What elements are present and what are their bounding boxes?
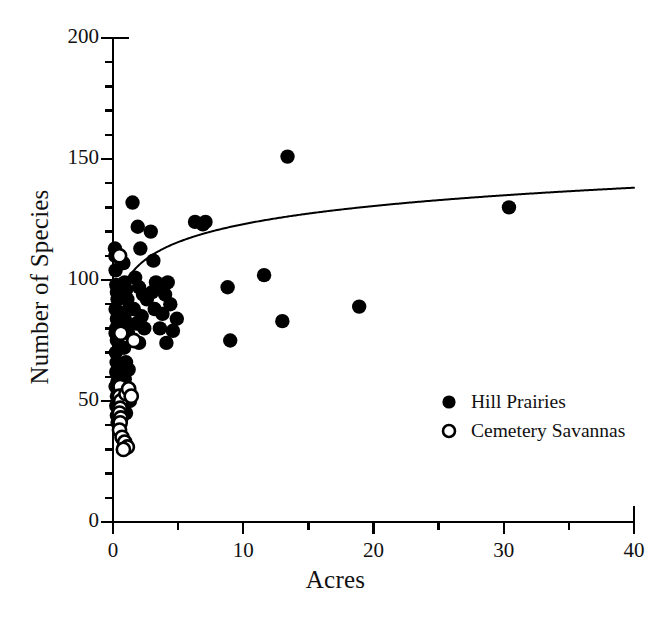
data-point-filled — [223, 333, 237, 347]
data-point-open — [113, 249, 126, 262]
data-point-filled — [220, 280, 234, 294]
data-point-open — [117, 443, 130, 456]
data-point-open — [114, 327, 127, 340]
y-axis-title: Number of Species — [26, 137, 54, 437]
data-point-filled — [352, 299, 366, 313]
legend-item-hill-prairies: Hill Prairies — [471, 391, 566, 413]
x-tick-label: 0 — [83, 538, 143, 563]
y-tick-label: 200 — [39, 24, 99, 49]
data-points — [108, 149, 516, 456]
data-point-filled — [275, 314, 289, 328]
data-point-filled — [144, 224, 158, 238]
series-hill-prairies — [108, 149, 516, 430]
legend-marker-open-circle — [443, 425, 455, 437]
x-tick-label: 30 — [474, 538, 534, 563]
data-point-filled — [161, 275, 175, 289]
data-point-filled — [133, 241, 147, 255]
legend-marker-filled-circle — [442, 395, 455, 408]
plot-canvas — [0, 0, 671, 622]
legend-item-cemetery-savannas: Cemetery Savannas — [471, 420, 625, 442]
legend-markers — [442, 395, 455, 437]
data-point-filled — [131, 220, 145, 234]
data-point-filled — [137, 321, 151, 335]
x-tick-label: 20 — [344, 538, 404, 563]
data-point-filled — [146, 253, 160, 267]
fit-curve — [113, 188, 634, 329]
x-axis-title: Acres — [0, 566, 671, 594]
data-point-filled — [198, 215, 212, 229]
data-point-filled — [159, 336, 173, 350]
data-point-filled — [153, 321, 167, 335]
axes — [101, 38, 634, 534]
data-point-open — [127, 334, 140, 347]
data-point-filled — [125, 195, 139, 209]
data-point-filled — [257, 268, 271, 282]
data-point-filled — [170, 312, 184, 326]
y-tick-label: 0 — [39, 508, 99, 533]
data-point-filled — [280, 149, 294, 163]
fit-curve-path — [113, 188, 634, 329]
x-tick-label: 40 — [604, 538, 664, 563]
scatter-plot-figure: 050100150200010203040 Acres Number of Sp… — [0, 0, 671, 622]
data-point-open — [125, 390, 138, 403]
data-point-filled — [502, 200, 516, 214]
data-point-filled — [163, 297, 177, 311]
x-tick-label: 10 — [213, 538, 273, 563]
